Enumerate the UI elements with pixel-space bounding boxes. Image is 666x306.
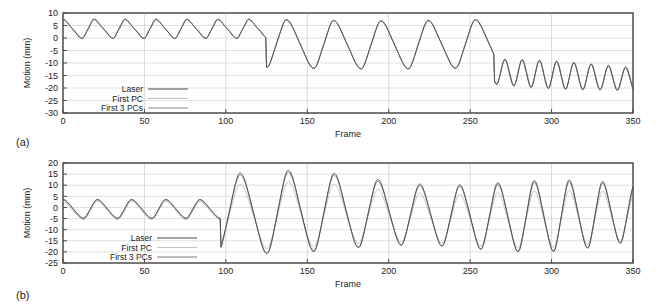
panel-a: 1050-5-10-15-20-25-300501001502002503003…	[0, 0, 666, 153]
y-tick-label: 0	[53, 203, 58, 213]
x-tick-label: 50	[139, 116, 149, 126]
x-tick-label: 0	[60, 266, 65, 276]
y-tick-label: -5	[50, 214, 58, 224]
y-tick-label: 20	[48, 158, 58, 168]
legend-label: Laser	[131, 233, 152, 243]
x-tick-label: 300	[544, 116, 559, 126]
y-tick-label: -30	[45, 108, 58, 118]
x-tick-label: 0	[60, 116, 65, 126]
legend-label: First 3 PCs	[101, 103, 143, 113]
panel-b-plot: 20151050-5-10-15-20-25050100150200250300…	[0, 153, 666, 306]
panel-tag: (b)	[16, 289, 29, 301]
x-tick-label: 150	[300, 266, 315, 276]
y-tick-label: -20	[45, 83, 58, 93]
x-tick-label: 100	[218, 116, 233, 126]
x-tick-label: 300	[544, 266, 559, 276]
y-tick-label: 10	[48, 180, 58, 190]
panel-tag: (a)	[16, 136, 29, 148]
x-tick-label: 250	[463, 116, 478, 126]
y-tick-label: 5	[53, 192, 58, 202]
legend-label: Laser	[122, 84, 143, 94]
x-axis-title: Frame	[335, 279, 361, 289]
legend-label: First PC	[112, 94, 143, 104]
x-tick-label: 200	[381, 266, 396, 276]
x-tick-label: 250	[463, 266, 478, 276]
x-tick-label: 200	[381, 116, 396, 126]
y-tick-label: -5	[50, 46, 58, 56]
y-tick-label: -10	[45, 225, 58, 235]
y-axis-title: Motion (mm)	[22, 38, 32, 89]
y-tick-label: 15	[48, 169, 58, 179]
y-tick-label: 5	[53, 21, 58, 31]
x-tick-label: 350	[625, 266, 640, 276]
y-axis-title: Motion (mm)	[22, 188, 32, 239]
y-tick-label: -25	[45, 96, 58, 106]
x-tick-label: 100	[218, 266, 233, 276]
y-tick-label: 10	[48, 8, 58, 18]
x-tick-label: 50	[139, 266, 149, 276]
legend-label: First PC	[121, 243, 152, 253]
x-tick-label: 150	[300, 116, 315, 126]
y-tick-label: -20	[45, 247, 58, 257]
y-tick-label: -10	[45, 58, 58, 68]
panel-a-plot: 1050-5-10-15-20-25-300501001502002503003…	[0, 0, 666, 153]
y-tick-label: -25	[45, 258, 58, 268]
legend-label: First 3 PCs	[110, 252, 152, 262]
x-axis-title: Frame	[335, 129, 361, 139]
panel-b: 20151050-5-10-15-20-25050100150200250300…	[0, 153, 666, 306]
figure-container: 1050-5-10-15-20-25-300501001502002503003…	[0, 0, 666, 306]
y-tick-label: -15	[45, 236, 58, 246]
y-tick-label: 0	[53, 33, 58, 43]
y-tick-label: -15	[45, 71, 58, 81]
x-tick-label: 350	[625, 116, 640, 126]
